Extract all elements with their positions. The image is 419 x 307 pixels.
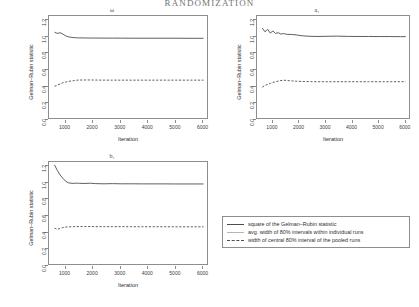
legend-key-solid-dark [227, 220, 244, 228]
legend-label: width of central 80% interval of the poo… [248, 237, 360, 243]
panel-title-a1-text: a₁ [315, 7, 320, 13]
panel-title-b1-text: b₁ [109, 153, 114, 159]
y-axis-label-omega: Gelman–Rubin statistic [28, 37, 34, 107]
x-tick-label: 3000 [313, 124, 337, 130]
x-tick-label: 2000 [80, 124, 104, 130]
y-axis-label-b1: Gelman–Rubin statistic [28, 183, 34, 253]
series-canvas-b1 [49, 162, 208, 265]
data-series-dashed [262, 80, 405, 87]
figure-legend: square of the Gelman–Rubin statisticavg.… [222, 216, 410, 248]
x-tick-label: 4000 [340, 124, 364, 130]
x-tick-mark [202, 120, 203, 123]
x-tick-mark [202, 266, 203, 269]
data-series-solid-dark [55, 165, 204, 184]
x-tick-mark [120, 266, 121, 269]
plot-area-b1 [48, 161, 208, 265]
y-tick-label: 0.6 [249, 69, 255, 89]
x-tick-mark [325, 120, 326, 123]
x-tick-mark [405, 120, 406, 123]
legend-line-icon [227, 240, 244, 241]
y-tick-label: 0.6 [41, 69, 47, 89]
x-tick-mark [378, 120, 379, 123]
x-tick-mark [175, 266, 176, 269]
x-tick-mark [120, 120, 121, 123]
x-tick-mark [92, 266, 93, 269]
x-axis-label-b1: Iteration [48, 282, 208, 288]
x-tick-label: 4000 [135, 270, 159, 276]
x-axis-label-a1: Iteration [256, 136, 410, 142]
x-tick-mark [92, 120, 93, 123]
legend-label: avg. width of 80% intervals within indiv… [248, 229, 363, 235]
y-tick-label: 1.2 [41, 165, 47, 185]
y-tick-label: 0.6 [41, 215, 47, 235]
series-canvas-omega [49, 16, 208, 119]
x-axis-label-omega: Iteration [48, 136, 208, 142]
panel-title-a1: a₁ [222, 6, 412, 14]
x-tick-mark [65, 120, 66, 123]
x-tick-label: 5000 [366, 124, 390, 130]
y-tick-label: 0.0 [41, 119, 47, 139]
data-series-solid-dark [262, 28, 405, 37]
plot-area-a1 [256, 15, 410, 119]
y-axis-label-a1: Gelman–Rubin statistic [236, 37, 242, 107]
panel-a1: a₁ Gelman–Rubin statistic 0.00.20.40.60.… [222, 6, 412, 151]
x-tick-label: 1000 [53, 124, 77, 130]
x-tick-mark [175, 120, 176, 123]
legend-key-dashed [227, 236, 244, 244]
x-tick-label: 2000 [80, 270, 104, 276]
x-tick-mark [298, 120, 299, 123]
legend-line-icon [227, 232, 244, 233]
x-tick-mark [147, 266, 148, 269]
x-tick-label: 2000 [286, 124, 310, 130]
panel-title-omega: ω [14, 6, 210, 14]
x-tick-mark [352, 120, 353, 123]
y-tick-label: 0.0 [41, 265, 47, 285]
x-tick-label: 6000 [190, 124, 214, 130]
x-tick-mark [147, 120, 148, 123]
y-tick-label: 0.0 [249, 119, 255, 139]
x-tick-label: 3000 [108, 124, 132, 130]
legend-label: square of the Gelman–Rubin statistic [248, 221, 336, 227]
x-tick-label: 5000 [163, 124, 187, 130]
x-tick-label: 6000 [190, 270, 214, 276]
figure-page: RANDOMIZATION ω Gelman–Rubin statistic 0… [0, 0, 419, 307]
panel-omega: ω Gelman–Rubin statistic 0.00.20.40.60.8… [14, 6, 210, 151]
y-tick-label: 1.2 [249, 19, 255, 39]
y-tick-label: 1.2 [41, 19, 47, 39]
x-tick-label: 6000 [393, 124, 417, 130]
data-series-solid-dark [55, 32, 204, 38]
legend-line-icon [227, 224, 244, 225]
panel-title-b1: b₁ [14, 152, 210, 160]
data-series-dashed [55, 227, 204, 230]
x-tick-label: 1000 [53, 270, 77, 276]
x-tick-label: 1000 [260, 124, 284, 130]
x-tick-mark [272, 120, 273, 123]
legend-row: square of the Gelman–Rubin statistic [227, 220, 405, 228]
legend-row: avg. width of 80% intervals within indiv… [227, 228, 405, 236]
x-tick-label: 5000 [163, 270, 187, 276]
x-tick-label: 3000 [108, 270, 132, 276]
x-tick-mark [65, 266, 66, 269]
series-canvas-a1 [257, 16, 410, 119]
legend-row: width of central 80% interval of the poo… [227, 236, 405, 244]
panel-title-omega-text: ω [110, 7, 114, 13]
x-tick-label: 4000 [135, 124, 159, 130]
plot-area-omega [48, 15, 208, 119]
panel-b1: b₁ Gelman–Rubin statistic 0.00.20.40.60.… [14, 152, 210, 300]
data-series-dashed [55, 80, 204, 86]
legend-key-solid-light [227, 228, 244, 236]
